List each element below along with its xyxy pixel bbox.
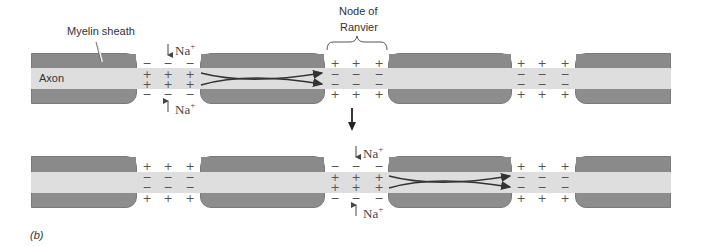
local-current-arrows-bottom [389,176,510,188]
sodium-ion-label: Na+ [363,144,383,162]
myelin-sheath-label: Myelin sheath [67,25,135,37]
node-of-ranvier-brace [327,36,387,50]
myelin-leader-line [97,42,102,62]
sodium-ion-label: Na+ [175,100,195,118]
axon-label: Axon [39,72,64,84]
transition-arrow [348,108,356,131]
panel-label: (b) [30,229,43,241]
node-of-ranvier-label-line2: Ranvier [340,21,378,33]
sodium-ion-label: Na+ [175,41,195,59]
sodium-ion-label: Na+ [363,204,383,222]
node-of-ranvier-label-line1: Node of [339,5,378,17]
local-current-arrows-top [201,73,322,85]
